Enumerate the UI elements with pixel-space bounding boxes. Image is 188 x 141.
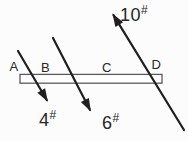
force-value-4: 4 xyxy=(39,110,50,130)
beam-force-diagram: A B C D 4# 6# 10# xyxy=(0,0,188,141)
point-label-c: C xyxy=(102,60,112,75)
force-unit-4: # xyxy=(50,108,57,122)
force-unit-6: # xyxy=(113,111,120,125)
diagram-canvas: A B C D 4# 6# 10# xyxy=(0,0,188,141)
beam-bar xyxy=(20,74,162,83)
force-value-10: 10 xyxy=(120,5,141,25)
point-label-d: D xyxy=(152,57,162,72)
force-unit-10: # xyxy=(141,3,148,17)
point-label-b: B xyxy=(41,60,50,75)
point-label-a: A xyxy=(9,59,18,74)
force-value-6: 6 xyxy=(102,113,113,133)
